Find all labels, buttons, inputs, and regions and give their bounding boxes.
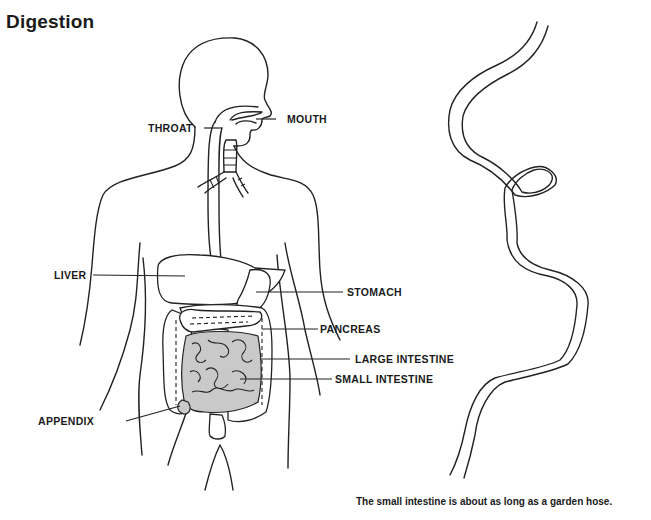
label-pancreas: PANCREAS <box>320 323 381 335</box>
label-large-intestine: LARGE INTESTINE <box>355 353 454 365</box>
mouth-cavity <box>215 106 262 124</box>
label-small-intestine: SMALL INTESTINE <box>335 373 433 385</box>
label-liver: LIVER <box>54 269 86 281</box>
appendix-shape <box>178 400 190 414</box>
figure-caption: The small intestine is about as long as … <box>356 496 612 507</box>
esophagus <box>208 122 222 270</box>
label-mouth: MOUTH <box>287 113 327 125</box>
garden-hose-illustration <box>449 22 589 478</box>
trachea <box>198 140 248 197</box>
digestive-system-illustration <box>0 0 651 520</box>
label-appendix: APPENDIX <box>38 415 94 427</box>
label-throat: THROAT <box>148 122 193 134</box>
label-stomach: STOMACH <box>347 286 402 298</box>
